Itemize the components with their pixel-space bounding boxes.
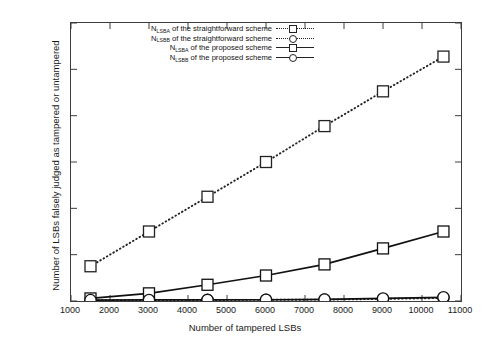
chart-legend: NLSBA of the straightforward schemeNLSBB… [118, 24, 314, 62]
legend-item-label: NLSBA of the proposed scheme [170, 43, 276, 52]
legend-item: NLSBA of the proposed scheme [118, 43, 314, 53]
legend-item-label: NLSBB of the straightforward scheme [151, 34, 276, 43]
chart-figure: Number of LSBs falsely judged as tampere… [0, 0, 490, 343]
legend-item-key [276, 43, 314, 52]
x-tick-label: 11000 [430, 305, 490, 315]
legend-item: NLSBA of the straightforward scheme [118, 24, 314, 34]
y-axis-label: Number of LSBs falsely judged as tampere… [50, 16, 61, 316]
plot-area [70, 22, 462, 302]
plot-canvas [71, 23, 461, 301]
legend-item-key [276, 24, 314, 33]
legend-item-label: NLSBA of the straightforward scheme [151, 24, 276, 33]
legend-item-key [276, 53, 314, 62]
series-0 [85, 51, 449, 272]
legend-item-key [276, 34, 314, 43]
legend-item: NLSBB of the straightforward scheme [118, 34, 314, 44]
x-axis-label: Number of tampered LSBs [0, 322, 490, 333]
legend-item: NLSBB of the proposed scheme [118, 53, 314, 63]
legend-item-label: NLSBB of the proposed scheme [170, 53, 276, 62]
